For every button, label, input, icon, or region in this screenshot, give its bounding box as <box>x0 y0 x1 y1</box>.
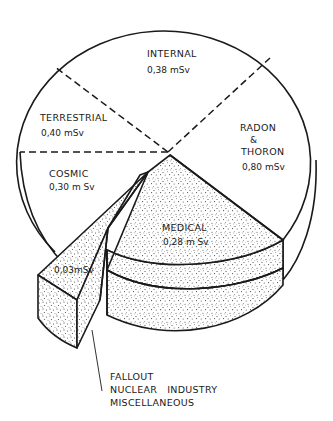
label-internal-name: INTERNAL <box>147 48 197 59</box>
pie-chart: INTERNAL 0,38 mSv TERRESTRIAL 0,40 mSv R… <box>0 0 333 421</box>
callout-line-nuclear-industry: NUCLEAR INDUSTRY <box>110 384 217 395</box>
label-cosmic-value: 0,30 m Sv <box>49 182 95 192</box>
label-medical-value: 0,28 m Sv <box>163 237 209 247</box>
label-radon-line3: THORON <box>240 146 284 157</box>
callout-line-miscellaneous: MISCELLANEOUS <box>110 397 194 408</box>
pie-side-right <box>283 160 316 280</box>
callout-leader <box>92 330 102 391</box>
label-radon-line2: & <box>250 135 257 145</box>
callout-line-fallout: FALLOUT <box>110 371 154 382</box>
label-small-value: 0,03mSv <box>54 265 95 275</box>
label-cosmic-name: COSMIC <box>49 168 89 179</box>
label-terrestrial-name: TERRESTRIAL <box>39 112 108 123</box>
label-terrestrial-value: 0,40 mSv <box>41 128 84 138</box>
divider-terrestrial-internal <box>55 67 168 152</box>
label-radon-value: 0,80 mSv <box>242 162 285 172</box>
label-medical-name: MEDICAL <box>162 222 207 233</box>
label-radon-line1: RADON <box>240 122 276 133</box>
label-internal-value: 0,38 mSv <box>147 65 190 75</box>
medical-top <box>107 155 283 270</box>
